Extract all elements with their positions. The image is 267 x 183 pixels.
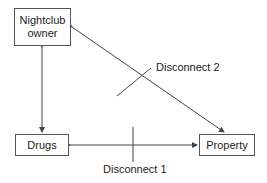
node-drugs-label: Drugs bbox=[27, 139, 56, 152]
node-nightclub-owner-line2: owner bbox=[20, 27, 66, 40]
node-nightclub-owner-line1: Nightclub bbox=[20, 14, 66, 27]
node-property-label: Property bbox=[206, 139, 248, 152]
node-drugs: Drugs bbox=[15, 134, 69, 156]
node-property: Property bbox=[199, 134, 255, 156]
node-nightclub-owner: Nightclub owner bbox=[14, 8, 71, 46]
disconnect-2-tick bbox=[117, 68, 151, 96]
label-disconnect-2: Disconnect 2 bbox=[156, 61, 220, 73]
label-disconnect-1: Disconnect 1 bbox=[103, 163, 167, 175]
edge-owner-property bbox=[72, 27, 224, 132]
